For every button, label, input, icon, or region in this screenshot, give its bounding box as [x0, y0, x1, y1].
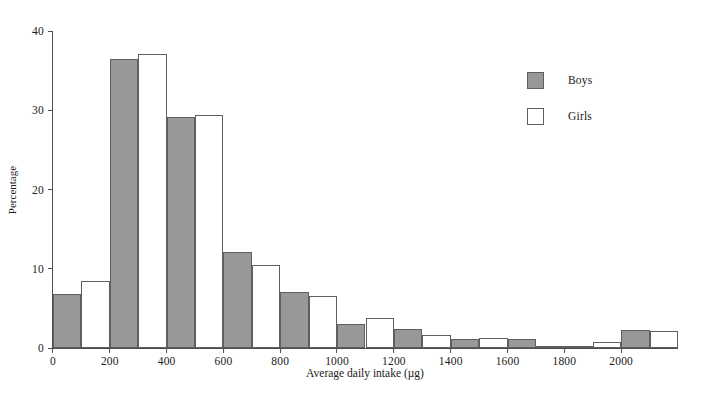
y-axis-tick: 30: [32, 104, 53, 116]
x-axis-title: Average daily intake (µg): [306, 367, 424, 379]
x-axis-tick-label: 2000: [609, 355, 633, 367]
x-axis-tick-label: 1000: [325, 355, 349, 367]
bar-girls-800-1000: [309, 296, 337, 348]
bar-boys-400-600: [167, 117, 195, 348]
x-axis-tick: 200: [101, 348, 119, 367]
bar-boys-1200-1400: [394, 329, 422, 348]
x-axis-tick-mark: [564, 348, 565, 353]
bar-girls-600-800: [252, 265, 280, 348]
x-axis-tick: 1800: [552, 348, 576, 367]
bar-girls-1200-1400: [422, 335, 450, 348]
x-axis-tick-mark: [280, 348, 281, 353]
bar-chart: Percentage Average daily intake (µg) 010…: [0, 0, 709, 399]
bar-boys-1000-1200: [337, 324, 365, 348]
y-axis-tick: 10: [32, 263, 53, 275]
bar-girls-1400-1600: [479, 338, 507, 348]
x-axis-tick: 0: [50, 348, 56, 367]
bar-boys-800-1000: [280, 292, 308, 348]
bar-boys-1600-1800: [508, 339, 536, 349]
x-axis-tick: 1200: [382, 348, 406, 367]
y-axis-tick: 40: [32, 25, 53, 37]
bar-girls-0-200: [81, 281, 109, 348]
chart-legend: Boys Girls: [527, 62, 592, 134]
legend-item-girls: Girls: [527, 98, 592, 134]
x-axis-tick-label: 0: [50, 355, 56, 367]
x-axis-tick-mark: [109, 348, 110, 353]
x-axis-tick-label: 400: [158, 355, 176, 367]
x-axis-tick: 1000: [325, 348, 349, 367]
x-axis-tick-label: 1200: [382, 355, 406, 367]
bar-girls-200-400: [138, 54, 166, 348]
bar-boys-1400-1600: [451, 339, 479, 348]
x-axis-tick: 600: [215, 348, 233, 367]
x-axis-tick-mark: [223, 348, 224, 353]
y-axis-tick-mark: [48, 268, 53, 269]
x-axis-tick: 800: [271, 348, 289, 367]
y-axis-tick-mark: [48, 31, 53, 32]
bar-boys-600-800: [223, 252, 251, 348]
y-axis-title: Percentage: [6, 166, 18, 214]
bar-girls-400-600: [195, 115, 223, 348]
x-axis-line: [52, 348, 678, 349]
bar-girls-1000-1200: [366, 318, 394, 348]
legend-swatch-boys: [527, 72, 544, 89]
legend-label-boys: Boys: [568, 74, 592, 86]
x-axis-tick: 400: [158, 348, 176, 367]
x-axis-tick: 1600: [496, 348, 520, 367]
bar-boys-0-200: [53, 294, 81, 348]
y-axis-tick-label: 40: [32, 25, 48, 37]
x-axis-tick-label: 1800: [552, 355, 576, 367]
legend-swatch-girls: [527, 108, 544, 125]
x-axis-tick: 2000: [609, 348, 633, 367]
x-axis-tick-label: 800: [271, 355, 289, 367]
bar-boys-200-400: [110, 59, 138, 348]
bar-girls-2000+: [650, 331, 678, 348]
x-axis-tick-label: 600: [215, 355, 233, 367]
y-axis-tick-mark: [48, 189, 53, 190]
bar-boys-2000+: [621, 330, 649, 348]
x-axis-tick-mark: [621, 348, 622, 353]
x-axis-tick-mark: [166, 348, 167, 353]
x-axis-tick-mark: [393, 348, 394, 353]
x-axis-tick-label: 1400: [439, 355, 463, 367]
y-axis-tick: 20: [32, 184, 53, 196]
legend-item-boys: Boys: [527, 62, 592, 98]
y-axis-tick-mark: [48, 110, 53, 111]
x-axis-tick: 1400: [439, 348, 463, 367]
y-axis-tick-label: 10: [32, 263, 48, 275]
y-axis-tick-label: 30: [32, 104, 48, 116]
y-axis-tick-label: 20: [32, 184, 48, 196]
legend-label-girls: Girls: [568, 110, 592, 122]
y-axis-tick-label: 0: [38, 342, 48, 354]
x-axis-tick-mark: [450, 348, 451, 353]
x-axis-tick-mark: [52, 348, 53, 353]
x-axis-tick-mark: [507, 348, 508, 353]
x-axis-tick-mark: [337, 348, 338, 353]
x-axis-tick-label: 200: [101, 355, 119, 367]
x-axis-tick-label: 1600: [496, 355, 520, 367]
